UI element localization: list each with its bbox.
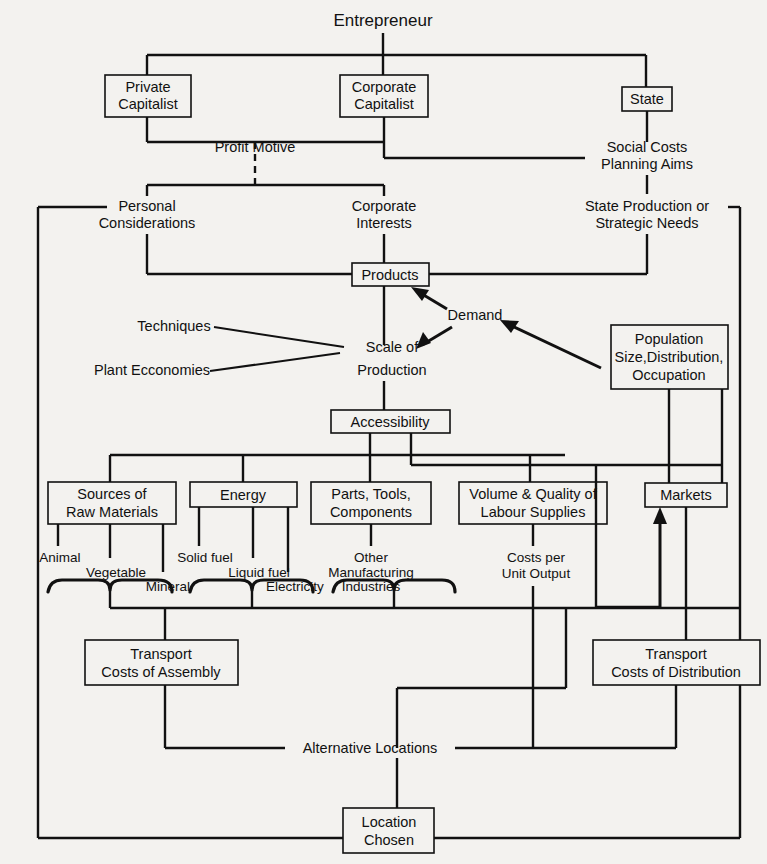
node-products-label: Products (361, 267, 418, 283)
node-volume-quality-line2: Labour Supplies (481, 504, 586, 520)
node-scale-production-line2: Production (357, 362, 426, 378)
node-transport-distribution-line1: Transport (645, 646, 707, 662)
node-location-chosen-line2: Chosen (364, 832, 414, 848)
node-parts-tools-line1: Parts, Tools, (331, 486, 411, 502)
node-liquid-fuel-label: Liquid fuel (228, 565, 290, 580)
node-corporate-capitalist-line1: Corporate (352, 79, 416, 95)
node-social-costs-line1: Social Costs (607, 139, 688, 155)
node-vegetable-label: Vegetable (86, 565, 146, 580)
node-personal-considerations-line2: Considerations (99, 215, 196, 231)
node-sources-raw-materials-line1: Sources of (77, 486, 147, 502)
node-transport-assembly-line1: Transport (130, 646, 192, 662)
diagram-canvas: Entrepreneur Private Capitalist Corporat… (0, 0, 767, 864)
industrial-location-flow-diagram: Entrepreneur Private Capitalist Corporat… (0, 0, 767, 864)
node-plant-economies-label: Plant Ecconomies (94, 362, 210, 378)
node-accessibility-label: Accessibility (351, 414, 431, 430)
node-corporate-interests-line2: Interests (356, 215, 412, 231)
node-population-line1: Population (635, 331, 704, 347)
node-other-manufacturing-line2: Manufacturing (328, 565, 414, 580)
node-parts-tools-line2: Components (330, 504, 412, 520)
node-sources-raw-materials-line2: Raw Materials (66, 504, 158, 520)
node-markets-label: Markets (660, 487, 712, 503)
node-population-line2: Size,Distribution, (615, 349, 724, 365)
node-volume-quality-line1: Volume & Quality of (469, 486, 597, 502)
node-alternative-locations-label: Alternative Locations (303, 740, 438, 756)
node-state-production-line2: Strategic Needs (595, 215, 698, 231)
node-private-capitalist-line1: Private (125, 79, 170, 95)
node-other-manufacturing-line1: Other (354, 550, 388, 565)
node-solid-fuel-label: Solid fuel (177, 550, 233, 565)
node-private-capitalist-line2: Capitalist (118, 96, 178, 112)
node-costs-per-unit-line2: Unit Output (502, 566, 571, 581)
node-transport-assembly-line2: Costs of Assembly (101, 664, 221, 680)
node-corporate-capitalist-line2: Capitalist (354, 96, 414, 112)
node-transport-distribution-line2: Costs of Distribution (611, 664, 741, 680)
node-state-production-line1: State Production or (585, 198, 709, 214)
node-corporate-interests-line1: Corporate (352, 198, 416, 214)
node-techniques-label: Techniques (137, 318, 210, 334)
node-energy-label: Energy (220, 487, 267, 503)
node-animal-label: Animal (39, 550, 80, 565)
node-scale-production-line1: Scale of (366, 339, 419, 355)
node-entrepreneur-label: Entrepreneur (333, 11, 433, 30)
node-costs-per-unit-line1: Costs per (507, 550, 565, 565)
node-social-costs-line2: Planning Aims (601, 156, 693, 172)
node-location-chosen-line1: Location (362, 814, 417, 830)
node-state-label: State (630, 91, 664, 107)
node-population-line3: Occupation (632, 367, 705, 383)
node-demand-label: Demand (448, 307, 503, 323)
node-personal-considerations-line1: Personal (118, 198, 175, 214)
